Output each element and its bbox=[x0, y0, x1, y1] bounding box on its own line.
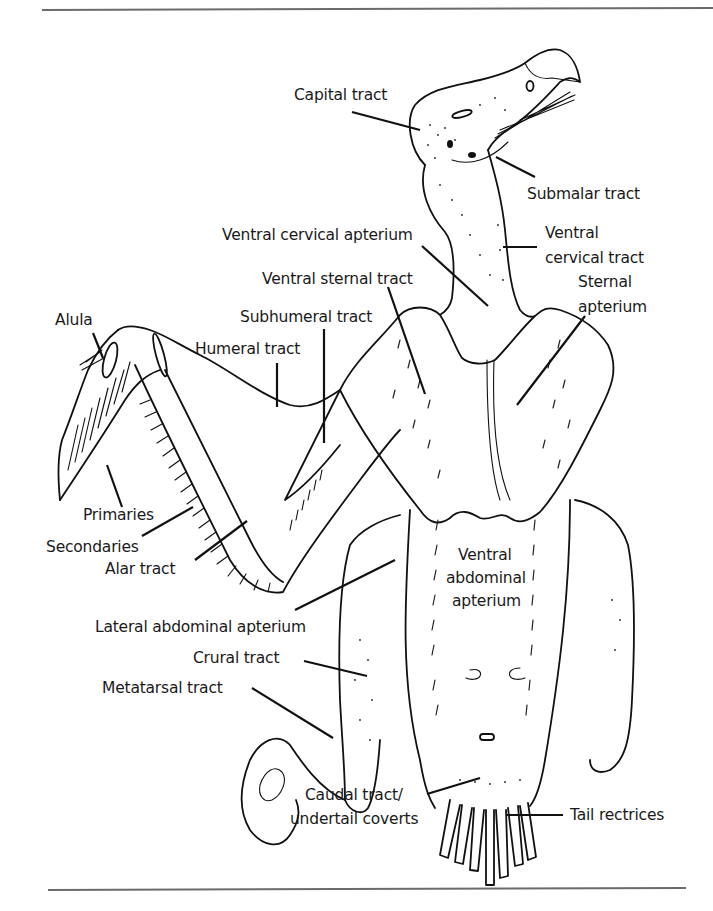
label-sternal-apterium-2: apterium bbox=[578, 298, 647, 316]
label-secondaries: Secondaries bbox=[46, 538, 139, 556]
right-thigh bbox=[575, 500, 634, 772]
wing-inner-edge bbox=[165, 370, 283, 582]
leader-caudal-tract bbox=[427, 778, 480, 794]
label-subhumeral-tract: Subhumeral tract bbox=[240, 308, 372, 326]
leader-primaries bbox=[107, 465, 122, 507]
top-rule bbox=[42, 8, 713, 10]
label-lateral-abdominal-apterium: Lateral abdominal apterium bbox=[95, 618, 306, 636]
label-tail-rectrices: Tail rectrices bbox=[569, 806, 664, 824]
label-ventral-cervical-tract-1: Ventral bbox=[545, 224, 599, 242]
label-humeral-tract: Humeral tract bbox=[195, 340, 300, 358]
abdomen-right bbox=[530, 500, 570, 806]
label-alar-tract: Alar tract bbox=[105, 560, 175, 578]
wing-leading-edge bbox=[118, 326, 340, 406]
label-ventral-cervical-tract-2: cervical tract bbox=[545, 249, 644, 267]
label-ventral-abdominal-apterium-3: apterium bbox=[452, 592, 521, 610]
nostril bbox=[527, 81, 534, 91]
label-primaries: Primaries bbox=[83, 506, 154, 524]
neck-left bbox=[423, 165, 454, 315]
head-outline bbox=[410, 49, 580, 165]
label-crural-tract: Crural tract bbox=[193, 649, 279, 667]
bird-illustration bbox=[59, 49, 634, 885]
left-thigh bbox=[339, 515, 400, 812]
cloaca bbox=[480, 734, 494, 740]
ear-spot-2 bbox=[468, 152, 476, 158]
ear-spot-1 bbox=[447, 140, 453, 148]
breast-outline bbox=[340, 308, 613, 523]
label-ventral-abdominal-apterium-2: abdominal bbox=[446, 569, 526, 587]
primaries-hatching bbox=[68, 362, 130, 470]
abdomen-left bbox=[406, 510, 435, 808]
leader-alula bbox=[93, 333, 103, 358]
left-toe-detail bbox=[260, 769, 285, 801]
vent-right bbox=[509, 668, 525, 679]
leader-ventral-cervical-apterium bbox=[422, 246, 488, 306]
label-capital-tract: Capital tract bbox=[294, 86, 387, 104]
bristles bbox=[495, 92, 575, 138]
label-sternal-apterium-1: Sternal bbox=[578, 273, 632, 291]
neck-right bbox=[488, 150, 535, 317]
leader-submalar-tract bbox=[496, 157, 535, 177]
tail-rectrices-drawing bbox=[440, 800, 536, 885]
label-alula: Alula bbox=[55, 311, 93, 329]
feather-tract-diagram: Capital tract Submalar tract Ventral cer… bbox=[0, 0, 713, 911]
vent-left bbox=[466, 669, 481, 679]
bottom-rule bbox=[48, 888, 686, 890]
primaries-edge bbox=[60, 370, 160, 500]
leader-crural-tract bbox=[304, 661, 367, 676]
label-ventral-sternal-tract: Ventral sternal tract bbox=[262, 270, 413, 288]
leader-metatarsal-tract bbox=[252, 688, 333, 738]
label-submalar-tract: Submalar tract bbox=[527, 185, 640, 203]
label-metatarsal-tract: Metatarsal tract bbox=[102, 679, 223, 697]
eye bbox=[452, 109, 473, 120]
label-ventral-abdominal-apterium-1: Ventral bbox=[458, 546, 512, 564]
label-caudal-tract-1: Caudal tract/ bbox=[305, 786, 404, 804]
wing-tip bbox=[59, 330, 118, 500]
label-ventral-cervical-apterium: Ventral cervical apterium bbox=[222, 226, 413, 244]
label-caudal-tract-2: undertail coverts bbox=[290, 810, 418, 828]
leader-alar-tract bbox=[195, 521, 247, 560]
